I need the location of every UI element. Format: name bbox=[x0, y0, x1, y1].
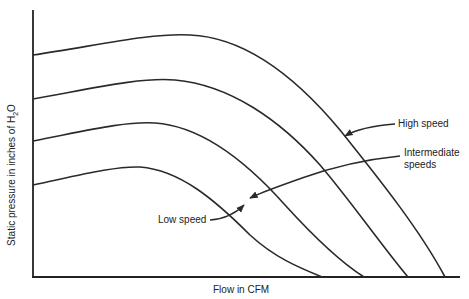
y-axis-label: Static pressure in inches of H2O bbox=[2, 80, 22, 270]
high-speed-arrow bbox=[345, 124, 395, 136]
y-axis-label-suffix: O bbox=[6, 104, 17, 112]
y-axis-label-subscript: 2 bbox=[12, 112, 19, 116]
x-axis-label: Flow in CFM bbox=[213, 284, 269, 296]
y-axis-label-text: Static pressure in inches of H bbox=[6, 116, 17, 246]
curve-intermediate-speed-1 bbox=[33, 80, 408, 277]
fan-curve-chart bbox=[0, 0, 469, 299]
label-low-speed: Low speed bbox=[158, 214, 206, 226]
label-intermediate-line2: speeds bbox=[404, 159, 436, 171]
label-high-speed: High speed bbox=[398, 118, 449, 130]
label-intermediate-line1: Intermediate bbox=[404, 147, 460, 159]
curve-high-speed bbox=[33, 35, 445, 277]
curve-intermediate-speed-2 bbox=[33, 123, 364, 277]
